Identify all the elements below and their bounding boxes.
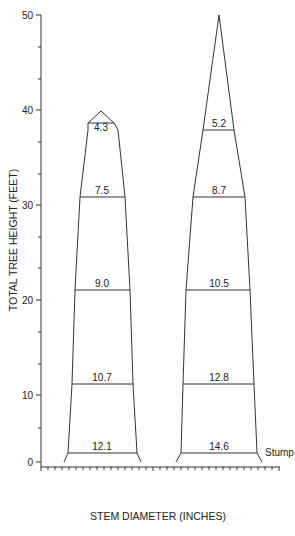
right-diameter-top: 5.2 xyxy=(212,118,226,129)
left-diameter-31ft: 7.5 xyxy=(95,185,109,196)
left-diameter-11ft: 10.7 xyxy=(92,372,112,383)
y-tick-30: 30 xyxy=(22,200,34,211)
tree-taper-diagram: 50 40 30 20 10 0 TOTAL TREE HEIGHT (FEET… xyxy=(0,0,295,536)
right-diameter-stump: 14.6 xyxy=(209,441,229,452)
y-tick-20: 20 xyxy=(22,295,34,306)
y-tick-labels: 50 40 30 20 10 0 xyxy=(22,10,34,468)
y-tick-40: 40 xyxy=(22,105,34,116)
right-diameter-31ft: 8.7 xyxy=(212,185,226,196)
stump-annotation: Stump xyxy=(265,447,294,458)
y-tick-10: 10 xyxy=(22,390,34,401)
left-diameter-21ft: 9.0 xyxy=(95,278,109,289)
y-axis xyxy=(36,15,41,467)
left-diameter-stump: 12.1 xyxy=(92,441,112,452)
x-axis-title: STEM DIAMETER (INCHES) xyxy=(90,510,226,522)
left-diameter-top: 4.3 xyxy=(94,122,108,133)
left-tree-labels: 12.1 10.7 9.0 7.5 4.3 xyxy=(92,122,112,452)
right-diameter-11ft: 12.8 xyxy=(209,372,229,383)
right-diameter-21ft: 10.5 xyxy=(209,278,229,289)
y-tick-0: 0 xyxy=(27,457,33,468)
right-tree-labels: 14.6 12.8 10.5 8.7 5.2 xyxy=(209,118,229,452)
x-axis xyxy=(41,467,280,471)
right-tree xyxy=(176,15,262,462)
y-axis-title: TOTAL TREE HEIGHT (FEET) xyxy=(7,169,19,311)
y-tick-50: 50 xyxy=(22,10,34,21)
